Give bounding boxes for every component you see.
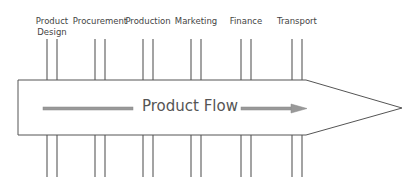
stage-label-finance: Finance xyxy=(230,16,263,27)
right-flow-bar xyxy=(241,107,293,110)
stage-label-marketing: Marketing xyxy=(175,16,217,27)
stage-label-production: Production xyxy=(125,16,170,27)
stage-label-transport: Transport xyxy=(277,16,317,27)
left-flow-bar xyxy=(43,107,133,110)
diagram-title: Product Flow xyxy=(142,97,238,115)
stage-label-product-design: Product Design xyxy=(36,16,68,38)
stage-label-procurement: Procurement xyxy=(73,16,127,27)
